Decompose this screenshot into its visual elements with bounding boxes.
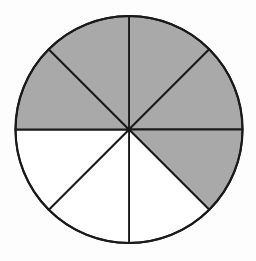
fraction-circle-figure <box>0 0 256 261</box>
fraction-circle-diagram <box>0 0 256 261</box>
